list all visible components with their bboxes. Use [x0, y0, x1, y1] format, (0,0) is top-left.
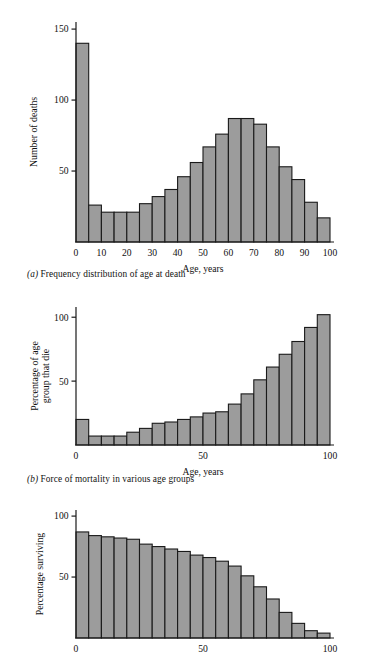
- histogram-bar: [203, 147, 216, 242]
- x-tick-label: 60: [224, 247, 234, 258]
- histogram-bar: [101, 436, 114, 445]
- histogram-bar: [140, 204, 153, 242]
- histogram-bar: [254, 124, 267, 242]
- histogram-bar: [254, 587, 267, 638]
- histogram-bar: [178, 177, 191, 242]
- x-tick-label: 50: [198, 247, 208, 258]
- panel-b: 50100050100Age, yearsPercentage of agegr…: [0, 293, 370, 483]
- histogram-bar: [152, 547, 165, 638]
- x-tick-label: 80: [274, 247, 284, 258]
- histogram-bar: [279, 167, 292, 242]
- histogram-bar: [292, 342, 305, 446]
- caption-a-label: (a): [27, 269, 38, 279]
- histogram-bar: [114, 212, 127, 242]
- x-tick-label: 0: [74, 643, 79, 654]
- histogram-bar: [267, 599, 280, 638]
- histogram-bar: [165, 549, 178, 638]
- x-tick-label: 100: [323, 247, 338, 258]
- chart-b-svg: 50100050100Age, yearsPercentage of agegr…: [0, 293, 370, 483]
- histogram-bar: [279, 612, 292, 638]
- histogram-bar: [152, 423, 165, 445]
- chart-a-svg: 501001500102030405060708090100Age, years…: [0, 0, 370, 282]
- y-axis-title: Percentage surviving: [34, 533, 45, 616]
- y-tick-label: 50: [59, 376, 69, 387]
- x-tick-label: 0: [74, 450, 79, 461]
- y-tick-label: 50: [59, 165, 69, 176]
- histogram-bar: [89, 205, 102, 242]
- svg-text:Number of deaths: Number of deaths: [28, 97, 39, 167]
- caption-a-text: Frequency distribution of age at death: [41, 269, 186, 279]
- y-tick-label: 100: [54, 510, 69, 521]
- histogram-bar: [178, 551, 191, 638]
- histogram-bar: [114, 436, 127, 445]
- histogram-bar: [292, 180, 305, 242]
- histogram-bar: [317, 315, 330, 445]
- svg-text:Percentage surviving: Percentage surviving: [34, 533, 45, 616]
- histogram-bar: [228, 119, 241, 242]
- y-tick-label: 150: [54, 23, 69, 34]
- histogram-bar: [114, 538, 127, 638]
- caption-b: (b) Force of mortality in various age gr…: [0, 473, 194, 485]
- x-tick-label: 100: [323, 450, 338, 461]
- histogram-bar: [140, 544, 153, 638]
- chart-c: 50100050100Percentage surviving: [0, 494, 370, 666]
- caption-b-text: Force of mortality in various age groups: [41, 474, 195, 484]
- histogram-bar: [203, 413, 216, 445]
- histogram-bar: [127, 212, 140, 242]
- histogram-bar: [279, 354, 292, 445]
- histogram-bar: [127, 539, 140, 638]
- histogram-bar: [101, 212, 114, 242]
- histogram-bar: [254, 380, 267, 445]
- histogram-bar: [305, 631, 318, 638]
- histogram-bar: [190, 417, 203, 445]
- x-tick-label: 70: [249, 247, 259, 258]
- histogram-bar: [267, 147, 280, 242]
- histogram-bar: [165, 189, 178, 242]
- histogram-bar: [241, 576, 254, 638]
- histogram-bar: [140, 428, 153, 445]
- histogram-bar: [216, 561, 229, 638]
- y-tick-label: 50: [59, 571, 69, 582]
- panel-a: 501001500102030405060708090100Age, years…: [0, 0, 370, 282]
- x-tick-label: 30: [147, 247, 157, 258]
- histogram-bar: [241, 394, 254, 445]
- histogram-bar: [228, 566, 241, 638]
- y-axis-title: Percentage of agegroup that die: [29, 341, 51, 411]
- histogram-bar: [165, 422, 178, 445]
- y-axis-title: Number of deaths: [28, 97, 39, 167]
- svg-text:Percentage of age: Percentage of age: [29, 341, 40, 411]
- x-tick-label: 90: [300, 247, 310, 258]
- panel-c: 50100050100Percentage surviving: [0, 494, 370, 666]
- chart-c-svg: 50100050100Percentage surviving: [0, 494, 370, 666]
- histogram-bar: [292, 623, 305, 638]
- histogram-bar: [241, 119, 254, 242]
- histogram-bar: [216, 134, 229, 242]
- y-tick-label: 100: [54, 312, 69, 323]
- x-tick-label: 0: [74, 247, 79, 258]
- histogram-bar: [317, 633, 330, 638]
- x-tick-label: 100: [323, 643, 338, 654]
- histogram-bar: [152, 197, 165, 242]
- histogram-bar: [267, 367, 280, 445]
- y-tick-label: 100: [54, 94, 69, 105]
- histogram-bar: [203, 558, 216, 638]
- x-tick-label: 20: [122, 247, 132, 258]
- histogram-bar: [190, 555, 203, 638]
- chart-a: 501001500102030405060708090100Age, years…: [0, 0, 370, 282]
- histogram-bar: [317, 218, 330, 242]
- caption-b-label: (b): [27, 474, 38, 484]
- histogram-bar: [76, 43, 89, 242]
- histogram-bar: [76, 419, 89, 445]
- histogram-bar: [190, 163, 203, 242]
- x-tick-label: 10: [97, 247, 107, 258]
- x-axis-title: Age, years: [182, 263, 223, 274]
- histogram-bar: [89, 436, 102, 445]
- histogram-bar: [127, 432, 140, 445]
- histogram-bar: [305, 327, 318, 445]
- histogram-bar: [76, 532, 89, 638]
- histogram-bar: [101, 537, 114, 638]
- svg-text:group that die: group that die: [40, 348, 51, 403]
- chart-b: 50100050100Age, yearsPercentage of agegr…: [0, 293, 370, 483]
- caption-a: (a) Frequency distribution of age at dea…: [0, 268, 186, 280]
- x-tick-label: 40: [173, 247, 183, 258]
